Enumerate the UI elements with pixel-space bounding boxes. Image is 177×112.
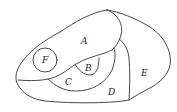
region-label-a: A (80, 36, 88, 46)
diagram-canvas: A B C D E F (0, 0, 177, 112)
boundary-c-d (48, 48, 115, 91)
boundary-d-e (119, 39, 130, 100)
boundary-a-lower (18, 48, 114, 81)
region-diagram: A B C D E F (0, 0, 177, 112)
region-label-d: D (107, 87, 115, 97)
boundary-a-right (107, 10, 122, 48)
region-label-f: F (41, 55, 49, 65)
region-label-b: B (84, 63, 92, 73)
region-label-c: C (65, 77, 72, 87)
region-label-e: E (140, 68, 148, 78)
